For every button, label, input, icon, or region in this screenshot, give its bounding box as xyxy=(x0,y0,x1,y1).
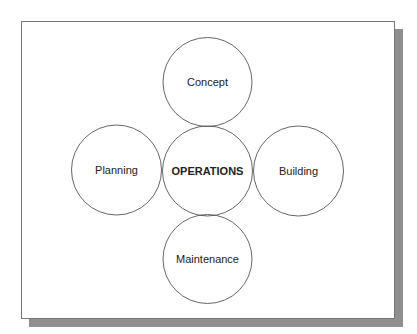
node-building: Building xyxy=(254,126,344,216)
node-concept: Concept xyxy=(163,38,252,127)
node-operations: OPERATIONS xyxy=(163,126,253,216)
node-maintenance: Maintenance xyxy=(163,215,252,304)
diagram-canvas: Concept Planning OPERATIONS Building Mai… xyxy=(0,0,417,334)
maintenance-label: Maintenance xyxy=(176,253,239,265)
building-label: Building xyxy=(279,165,318,177)
operations-label: OPERATIONS xyxy=(172,165,244,177)
concept-label: Concept xyxy=(187,76,228,88)
node-planning: Planning xyxy=(72,125,162,215)
planning-label: Planning xyxy=(95,164,138,176)
